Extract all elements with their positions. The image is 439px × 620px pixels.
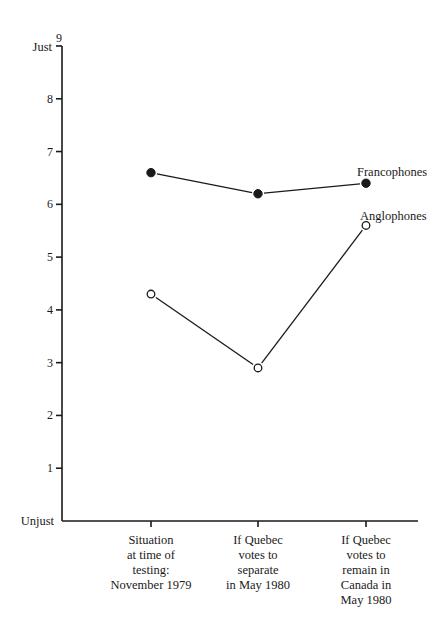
open-circle-marker — [147, 290, 155, 298]
x-category-label-line: separate — [203, 563, 313, 578]
filled-circle-marker — [362, 179, 370, 187]
x-category-label-line: Canada in — [311, 578, 421, 593]
x-category-label-line: November 1979 — [96, 578, 206, 593]
y-tick-label: 1 — [47, 461, 53, 475]
filled-circle-marker — [147, 168, 155, 176]
series-anglophones — [147, 222, 370, 372]
x-category-label: If Quebecvotes toseparatein May 1980 — [203, 533, 313, 593]
filled-circle-marker — [254, 190, 262, 198]
francophones-label: Francophones — [357, 165, 427, 179]
line-chart: 123456789 Just Unjust Francophones Anglo… — [0, 0, 439, 620]
x-category-label: If Quebecvotes toremain inCanada inMay 1… — [311, 533, 421, 608]
x-category-label-line: votes to — [311, 548, 421, 563]
y-tick-label: 3 — [47, 356, 53, 370]
y-top-label: Just — [33, 40, 53, 54]
y-tick-label: 7 — [47, 145, 53, 159]
anglophones-label: Anglophones — [360, 209, 427, 223]
y-tick-label: 6 — [47, 197, 53, 211]
y-tick-label: 9 — [56, 31, 62, 45]
x-category-label-line: If Quebec — [203, 533, 313, 548]
series-segment — [157, 174, 252, 193]
series-segment — [156, 297, 253, 364]
series-francophones — [147, 168, 370, 198]
x-category-label-line: remain in — [311, 563, 421, 578]
series-segment — [264, 184, 360, 193]
x-category-label-line: Situation — [96, 533, 206, 548]
y-ticks: 123456789 — [47, 31, 62, 475]
x-ticks — [151, 521, 366, 527]
x-category-label-line: in May 1980 — [203, 578, 313, 593]
x-category-label-line: If Quebec — [311, 533, 421, 548]
y-tick-label: 4 — [47, 303, 53, 317]
open-circle-marker — [254, 364, 262, 372]
y-bottom-label: Unjust — [21, 514, 55, 528]
x-category-label-line: testing: — [96, 563, 206, 578]
x-category-label: Situationat time oftesting:November 1979 — [96, 533, 206, 593]
x-category-label-line: at time of — [96, 548, 206, 563]
y-tick-label: 8 — [47, 92, 53, 106]
x-category-label-line: May 1980 — [311, 593, 421, 608]
series-segment — [262, 230, 363, 363]
y-tick-label: 2 — [47, 408, 53, 422]
y-tick-label: 5 — [47, 250, 53, 264]
x-category-label-line: votes to — [203, 548, 313, 563]
